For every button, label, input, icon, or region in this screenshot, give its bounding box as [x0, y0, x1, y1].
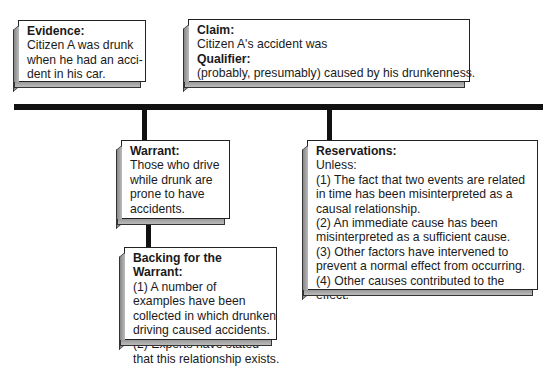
warrant-box: Warrant: Those who drive while drunk are…: [121, 140, 230, 219]
backing-title: Backing for the Warrant:: [133, 251, 270, 280]
qualifier-title: Qualifier:: [197, 52, 463, 66]
reservations-line: causal relationship.: [316, 202, 531, 216]
evidence-line: Citizen A was drunk: [27, 38, 139, 52]
reservations-line: (4) Other causes contributed to the: [316, 274, 531, 288]
warrant-connector: [142, 108, 147, 140]
main-connector-line: [14, 104, 543, 110]
reservations-connector: [327, 108, 332, 140]
backing-line: collected in which drunken: [133, 309, 270, 323]
backing-line: (1) A number of: [133, 280, 270, 294]
warrant-line: prone to have: [130, 187, 223, 201]
reservations-line: Unless:: [316, 158, 531, 172]
reservations-line: (3) Other factors have intervened to: [316, 245, 531, 259]
claim-title: Claim:: [197, 23, 463, 37]
warrant-line: while drunk are: [130, 173, 223, 187]
reservations-line: (2) An immediate cause has been: [316, 216, 531, 230]
reservations-line: effect.: [316, 288, 531, 302]
warrant-line: accidents.: [130, 202, 223, 216]
warrant-title: Warrant:: [130, 144, 223, 158]
backing-line: driving caused accidents.: [133, 323, 270, 337]
reservations-line: prevent a normal effect from occurring.: [316, 259, 531, 273]
reservations-box: Reservations: Unless: (1) The fact that …: [307, 140, 538, 290]
claim-box: Claim: Citizen A's accident was Qualifie…: [188, 19, 470, 82]
evidence-line: dent in his car.: [27, 67, 139, 81]
claim-text: Citizen A's accident was: [197, 37, 463, 51]
evidence-line: when he had an acci-: [27, 53, 139, 67]
backing-box: Backing for the Warrant: (1) A number of…: [124, 247, 277, 340]
reservations-line: (1) The fact that two events are related: [316, 173, 531, 187]
reservations-line: in time has been misinterpreted as a: [316, 187, 531, 201]
evidence-box: Evidence: Citizen A was drunk when he ha…: [18, 20, 146, 82]
backing-line: that this relationship exists.: [133, 352, 270, 366]
backing-line: (2) Experts have stated: [133, 337, 270, 351]
backing-connector: [146, 225, 151, 247]
evidence-title: Evidence:: [27, 24, 139, 38]
warrant-line: Those who drive: [130, 158, 223, 172]
qualifier-text: (probably, presumably) caused by his dru…: [197, 66, 463, 80]
reservations-line: misinterpreted as a sufficient cause.: [316, 230, 531, 244]
reservations-title: Reservations:: [316, 144, 531, 158]
backing-line: examples have been: [133, 294, 270, 308]
